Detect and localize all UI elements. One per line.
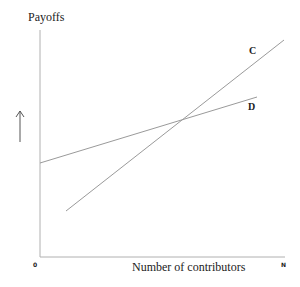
series-c-label: C xyxy=(249,45,256,56)
up-arrow-icon xyxy=(16,111,24,142)
x-axis-label: Number of contributors xyxy=(132,260,245,275)
series-d-label: D xyxy=(248,101,255,112)
chart-canvas xyxy=(0,0,300,287)
series-c-line xyxy=(66,40,284,211)
x-tick-max: N xyxy=(281,261,286,268)
series-d-line xyxy=(40,97,257,163)
x-tick-min: 0 xyxy=(33,261,37,268)
y-axis-label: Payoffs xyxy=(28,10,64,25)
